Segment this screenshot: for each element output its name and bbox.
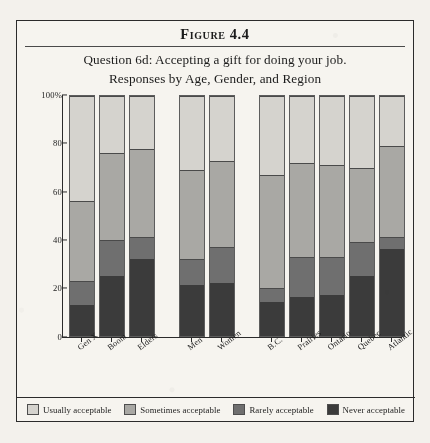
legend-item[interactable]: Usually acceptable <box>27 404 111 415</box>
bar-segment-usually <box>380 96 404 146</box>
plot-area <box>63 95 401 337</box>
bar-segment-sometimes <box>180 170 204 259</box>
legend-swatch-icon <box>124 404 136 415</box>
legend-swatch-icon <box>27 404 39 415</box>
bar-segment-sometimes <box>350 168 374 242</box>
y-tick-label: 40 <box>17 235 67 245</box>
subtitle-line-1: Question 6d: Accepting a gift for doing … <box>31 51 399 70</box>
bar-segment-sometimes <box>320 165 344 256</box>
bar-segment-never <box>380 249 404 335</box>
y-tick-label: 100% <box>17 90 67 100</box>
figure-frame: Figure 4.4 Question 6d: Accepting a gift… <box>16 20 414 422</box>
bar-segment-never <box>130 259 154 336</box>
figure-label: Figure 4.4 <box>17 21 413 43</box>
bar-segment-rarely <box>290 257 314 298</box>
bar-segment-never <box>260 302 284 336</box>
bar-segment-usually <box>260 96 284 175</box>
bar-segment-usually <box>70 96 94 202</box>
bar-segment-never <box>320 295 344 336</box>
bar-series-container <box>63 95 401 337</box>
bar-segment-usually <box>100 96 124 154</box>
bar-segment-rarely <box>350 242 374 276</box>
bar-segment-usually <box>320 96 344 166</box>
bar-men[interactable] <box>179 95 205 337</box>
bar-segment-rarely <box>260 288 284 302</box>
bar-segment-usually <box>350 96 374 168</box>
bar-segment-sometimes <box>100 153 124 239</box>
bar-segment-sometimes <box>210 161 234 247</box>
legend-label: Usually acceptable <box>43 405 111 415</box>
bar-boom[interactable] <box>99 95 125 337</box>
bar-segment-sometimes <box>130 149 154 238</box>
bar-quebec[interactable] <box>349 95 375 337</box>
bar-segment-never <box>290 297 314 335</box>
bar-segment-usually <box>290 96 314 163</box>
legend-label: Rarely acceptable <box>249 405 313 415</box>
bar-segment-never <box>210 283 234 336</box>
bar-women[interactable] <box>209 95 235 337</box>
bar-segment-never <box>350 276 374 336</box>
bar-prairies[interactable] <box>289 95 315 337</box>
bar-segment-usually <box>210 96 234 161</box>
bar-segment-rarely <box>180 259 204 285</box>
y-tick-label: 60 <box>17 187 67 197</box>
bar-segment-sometimes <box>290 163 314 257</box>
bar-segment-usually <box>130 96 154 149</box>
bar-segment-sometimes <box>70 201 94 280</box>
legend-item[interactable]: Never acceptable <box>327 404 405 415</box>
bar-segment-rarely <box>320 257 344 295</box>
bar-segment-never <box>180 285 204 335</box>
legend-swatch-icon <box>233 404 245 415</box>
bar-segment-rarely <box>130 237 154 259</box>
bar-segment-rarely <box>380 237 404 249</box>
bar-segment-never <box>100 276 124 336</box>
bar-segment-rarely <box>210 247 234 283</box>
subtitle-line-2: Responses by Age, Gender, and Region <box>31 70 399 89</box>
bar-segment-rarely <box>70 281 94 305</box>
bar-elders[interactable] <box>129 95 155 337</box>
legend-item[interactable]: Rarely acceptable <box>233 404 313 415</box>
legend-label: Never acceptable <box>343 405 405 415</box>
bar-segment-sometimes <box>380 146 404 237</box>
chart-legend: Usually acceptableSometimes acceptableRa… <box>17 397 415 415</box>
y-tick-label: 20 <box>17 283 67 293</box>
bar-segment-sometimes <box>260 175 284 288</box>
chart-plot: 100%806040200 Gen XBoomEldersMenWomenB.C… <box>17 89 415 357</box>
bar-segment-usually <box>180 96 204 170</box>
bar-segment-rarely <box>100 240 124 276</box>
bar-b-c[interactable] <box>259 95 285 337</box>
bar-ontario[interactable] <box>319 95 345 337</box>
y-tick-label: 80 <box>17 138 67 148</box>
bar-gen-x[interactable] <box>69 95 95 337</box>
legend-item[interactable]: Sometimes acceptable <box>124 404 220 415</box>
bar-segment-never <box>70 305 94 336</box>
y-tick-label: 0 <box>17 332 67 342</box>
legend-swatch-icon <box>327 404 339 415</box>
bar-atlantic[interactable] <box>379 95 405 337</box>
legend-label: Sometimes acceptable <box>140 405 220 415</box>
figure-subtitle: Question 6d: Accepting a gift for doing … <box>17 47 413 88</box>
